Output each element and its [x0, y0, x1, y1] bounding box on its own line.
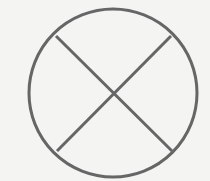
crossed-circle-diagram: [0, 0, 210, 181]
background: [0, 0, 210, 181]
